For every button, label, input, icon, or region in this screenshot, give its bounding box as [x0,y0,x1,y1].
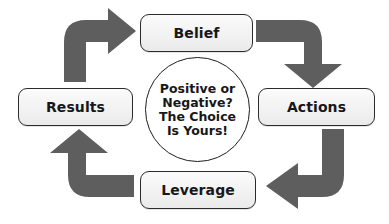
arrow-actions-to-leverage-icon [258,129,344,209]
arrow-results-to-belief-icon [52,8,136,82]
center-text-line-3: The Choice [159,110,236,124]
node-results-label: Results [46,100,105,114]
center-text-line-2: Negative? [162,96,232,110]
node-belief-label: Belief [174,26,220,40]
arrow-belief-to-actions-icon [256,8,342,88]
node-leverage[interactable]: Leverage [140,171,256,209]
center-circle: Positive or Negative? The Choice Is Your… [145,57,250,162]
arrow-leverage-to-results-icon [48,129,134,209]
center-text-line-1: Positive or [160,82,235,96]
node-actions-label: Actions [287,100,346,114]
node-belief[interactable]: Belief [140,14,253,52]
center-text-line-4: Is Yours! [167,124,228,138]
node-actions[interactable]: Actions [258,88,375,126]
diagram-canvas: Belief Actions Leverage Results Positive… [0,0,389,224]
node-leverage-label: Leverage [161,183,235,197]
node-results[interactable]: Results [18,88,133,126]
